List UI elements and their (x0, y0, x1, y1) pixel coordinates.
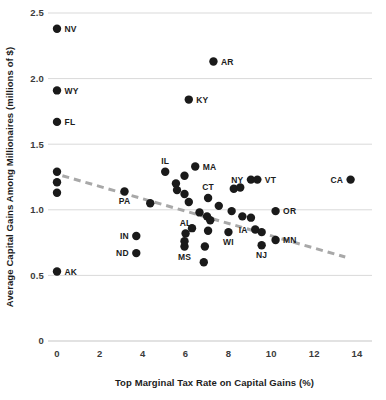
point-label-PA: PA (119, 196, 131, 206)
data-point-13 (180, 190, 188, 198)
data-point-24 (215, 202, 223, 210)
data-point-WI (224, 228, 232, 236)
point-label-IL: IL (161, 156, 169, 166)
x-tick-label-2: 2 (97, 348, 102, 359)
point-label-KY: KY (196, 95, 208, 105)
data-point-16 (146, 199, 154, 207)
point-label-CT: CT (202, 182, 214, 192)
x-tick-label-6: 6 (183, 348, 188, 359)
data-point-25 (195, 208, 203, 216)
data-point-40 (180, 237, 188, 245)
data-point-6 (53, 178, 61, 186)
point-label-NV: NV (65, 24, 77, 34)
data-point-ND (132, 249, 140, 257)
data-point-33 (204, 227, 212, 235)
data-point-IL (161, 168, 169, 176)
point-label-MN: MN (283, 235, 297, 245)
point-label-AK: AK (65, 267, 78, 277)
chart-background (0, 0, 386, 400)
point-label-CA: CA (330, 175, 343, 185)
data-point-CT (204, 194, 212, 202)
point-label-IA: IA (239, 225, 248, 235)
point-label-OR: OR (283, 206, 296, 216)
data-point-FL (53, 118, 61, 126)
point-label-WY: WY (65, 86, 79, 96)
y-tick-label-0.5: 0.5 (30, 270, 44, 281)
point-label-NJ: NJ (256, 250, 267, 260)
data-point-MA (191, 162, 199, 170)
data-point-KY (185, 95, 193, 103)
data-point-CA (346, 175, 354, 183)
point-label-FL: FL (65, 117, 76, 127)
point-label-AR: AR (221, 57, 234, 67)
scatter-chart: 00.51.01.52.02.502468101214NVARWYKYFLILM… (0, 0, 386, 400)
data-point-27 (206, 216, 214, 224)
data-point-AR (209, 57, 217, 65)
data-point-30 (247, 213, 255, 221)
x-tick-label-14: 14 (352, 348, 363, 359)
data-point-14 (185, 198, 193, 206)
y-tick-label-1.5: 1.5 (30, 139, 44, 150)
y-tick-label-2.5: 2.5 (30, 7, 44, 18)
data-point-36 (257, 228, 265, 236)
point-label-MS: MS (178, 252, 191, 262)
data-point-5 (53, 168, 61, 176)
data-point-VT (253, 175, 261, 183)
y-tick-label-2.0: 2.0 (30, 73, 44, 84)
data-point-29 (238, 212, 246, 220)
data-point-44 (200, 258, 208, 266)
x-tick-label-8: 8 (226, 348, 231, 359)
data-point-7 (53, 189, 61, 197)
x-tick-label-12: 12 (309, 348, 320, 359)
data-point-10 (180, 171, 188, 179)
data-point-AK (53, 267, 61, 275)
data-point-IN (132, 232, 140, 240)
data-point-NV (53, 25, 61, 33)
point-label-ND: ND (116, 248, 129, 258)
data-point-MN (271, 236, 279, 244)
data-point-12 (173, 186, 181, 194)
data-point-41 (201, 242, 209, 250)
y-axis-title: Average Capital Gains Among Millionaires… (4, 47, 15, 307)
x-axis-title: Top Marginal Tax Rate on Capital Gains (… (115, 377, 314, 388)
x-tick-label-10: 10 (266, 348, 277, 359)
point-label-VT: VT (265, 175, 277, 185)
data-point-28 (227, 207, 235, 215)
point-label-IN: IN (120, 231, 129, 241)
point-label-NY: NY (231, 175, 243, 185)
point-label-MA: MA (203, 162, 217, 172)
data-point-WY (53, 86, 61, 94)
y-tick-label-0: 0 (39, 335, 44, 346)
point-label-AL: AL (180, 218, 192, 228)
data-point-PA (120, 187, 128, 195)
y-tick-label-1.0: 1.0 (30, 204, 44, 215)
plot-area: 00.51.01.52.02.502468101214NVARWYKYFLILM… (0, 0, 386, 400)
data-point-NJ (257, 241, 265, 249)
data-point-AL (181, 229, 189, 237)
x-tick-label-4: 4 (140, 348, 146, 359)
x-tick-label-0: 0 (54, 348, 59, 359)
data-point-OR (271, 207, 279, 215)
point-label-WI: WI (223, 237, 234, 247)
